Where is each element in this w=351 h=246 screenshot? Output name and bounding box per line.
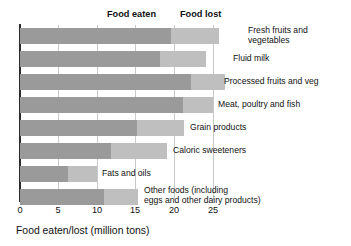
bar-segment-lost [183,97,213,113]
bar-row [20,143,167,159]
legend-label-food-lost: Food lost [180,9,221,19]
bar-segment-lost [160,51,206,67]
bar-segment-eaten [20,166,68,182]
gridline-25 [213,25,214,200]
bar-segment-lost [68,166,97,182]
bar-segment-lost [111,143,167,159]
x-tick-label: 25 [208,205,218,215]
bar-segment-lost [171,28,219,44]
x-tick-label: 15 [130,205,140,215]
category-label: Caloric sweeteners [173,146,246,156]
bar-segment-eaten [20,143,111,159]
bar-row [20,74,225,90]
bar-row [20,189,138,205]
bar-row [20,28,219,44]
bar-segment-eaten [20,51,160,67]
bar-row [20,51,206,67]
x-tick-label: 0 [17,205,22,215]
bar-segment-eaten [20,97,183,113]
bar-segment-eaten [20,120,137,136]
category-label: Meat, poultry and fish [218,100,300,110]
plot-area [20,25,351,200]
x-tick-label: 20 [169,205,179,215]
category-label: Grain products [190,123,246,133]
bar-chart: Food eaten Food lost [0,0,351,246]
bar-segment-eaten [20,189,104,205]
x-tick-label: 10 [92,205,102,215]
bar-segment-lost [137,120,183,136]
x-axis-title: Food eaten/lost (million tons) [16,225,149,236]
bar-row [20,120,184,136]
bar-segment-lost [191,74,225,90]
category-label: Processed fruits and veg [224,77,319,87]
category-label: Fats and oils [102,169,151,179]
legend-label-food-eaten: Food eaten [107,9,156,19]
bar-segment-eaten [20,74,191,90]
bar-row [20,166,97,182]
category-label: Fresh fruits and vegetables [248,26,308,45]
x-tick-label: 5 [55,205,60,215]
bar-row [20,97,213,113]
bar-segment-eaten [20,28,171,44]
category-label: Fluid milk [233,54,269,64]
category-label: Other foods (including eggs and other da… [144,186,261,205]
bar-segment-lost [104,189,138,205]
